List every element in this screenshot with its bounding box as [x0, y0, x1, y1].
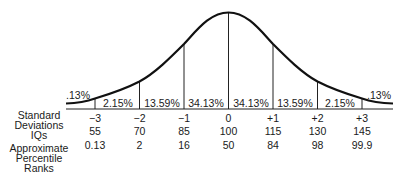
iq-value: 55	[89, 126, 101, 137]
iq-label: IQs	[0, 130, 78, 140]
percentile-value: 0.13	[85, 140, 105, 151]
iq-value: 115	[265, 126, 282, 137]
sd-tick: −2	[134, 113, 146, 124]
iq-value: 100	[220, 126, 238, 137]
band-label-5: 13.59%	[277, 98, 313, 109]
row-label-standard-deviations: Standard Deviations	[0, 110, 78, 130]
band-label-2: 13.59%	[144, 98, 180, 109]
sd-tick: +1	[267, 113, 279, 124]
row-label-percentile-ranks: Approximate Percentile Ranks	[0, 143, 78, 173]
percentile-value: 98	[312, 140, 324, 151]
percentile-value: 16	[178, 140, 190, 151]
bell-curve	[66, 13, 393, 104]
band-label-4: 34.13%	[233, 98, 269, 109]
sd-tick: −1	[178, 113, 190, 124]
percentile-value: 50	[223, 140, 235, 151]
sd-tick: 0	[226, 113, 232, 124]
band-label-3: 34.13%	[188, 98, 224, 109]
band-label-6: 2.15%	[325, 98, 355, 109]
iq-value: 145	[353, 126, 371, 137]
sd-tick: +3	[356, 113, 368, 124]
sd-tick: −3	[89, 113, 101, 124]
percentile-value: 84	[267, 140, 279, 151]
band-label-tail-right: .13%	[367, 90, 391, 101]
iq-value: 70	[134, 126, 146, 137]
percentile-value: 2	[137, 140, 143, 151]
band-label-tail-left: .13%	[66, 90, 90, 101]
sd-tick: +2	[312, 113, 324, 124]
sd-lines	[95, 13, 362, 110]
iq-value: 130	[309, 126, 327, 137]
percentile-value: 99.9	[352, 140, 372, 151]
iq-value: 85	[178, 126, 190, 137]
band-label-1: 2.15%	[103, 98, 133, 109]
row-label-iqs: IQs	[0, 130, 78, 140]
pr-label-line3: Ranks	[0, 163, 78, 173]
